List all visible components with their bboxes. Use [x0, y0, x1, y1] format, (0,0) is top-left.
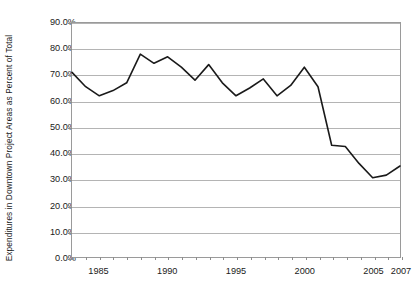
x-tick-mark — [375, 257, 376, 260]
x-tick-label: 2000 — [295, 266, 315, 276]
x-tick-mark — [141, 257, 142, 260]
x-tick-label: 1990 — [157, 266, 177, 276]
x-tick-mark — [320, 257, 321, 260]
y-tick-label: 50.0% — [22, 122, 76, 132]
x-tick-mark — [306, 257, 307, 260]
y-tick-label: 80.0% — [22, 43, 76, 53]
x-tick-mark — [113, 257, 114, 260]
y-tick-label: 60.0% — [22, 96, 76, 106]
x-tick-mark — [292, 257, 293, 260]
x-tick-mark — [155, 257, 156, 260]
x-tick-mark — [72, 257, 73, 260]
x-tick-mark — [278, 257, 279, 260]
x-tick-mark — [182, 257, 183, 260]
y-tick-label: 20.0% — [22, 201, 76, 211]
x-tick-mark — [347, 257, 348, 260]
y-tick-label: 40.0% — [22, 148, 76, 158]
x-tick-mark — [388, 257, 389, 260]
y-tick-label: 10.0% — [22, 227, 76, 237]
x-tick-label: 2007 — [391, 266, 411, 276]
x-tick-mark — [86, 257, 87, 260]
chart-container: Expenditures in Downtown Project Areas a… — [0, 0, 412, 296]
plot-area — [71, 22, 401, 258]
x-tick-mark — [196, 257, 197, 260]
x-tick-mark — [237, 257, 238, 260]
x-tick-label: 1995 — [226, 266, 246, 276]
x-tick-mark — [361, 257, 362, 260]
x-tick-mark — [210, 257, 211, 260]
x-tick-mark — [265, 257, 266, 260]
x-tick-label: 1985 — [88, 266, 108, 276]
x-tick-mark — [223, 257, 224, 260]
y-tick-label: 30.0% — [22, 174, 76, 184]
y-tick-label: 70.0% — [22, 69, 76, 79]
x-tick-label: 2005 — [363, 266, 383, 276]
x-tick-mark — [333, 257, 334, 260]
series-line — [72, 23, 400, 257]
x-tick-mark — [168, 257, 169, 260]
x-tick-mark — [251, 257, 252, 260]
y-tick-label: 90.0% — [22, 17, 76, 27]
y-tick-label: 0.0% — [22, 253, 76, 263]
x-tick-mark — [402, 257, 403, 260]
x-tick-mark — [100, 257, 101, 260]
y-axis-title: Expenditures in Downtown Project Areas a… — [0, 0, 18, 296]
x-tick-mark — [127, 257, 128, 260]
